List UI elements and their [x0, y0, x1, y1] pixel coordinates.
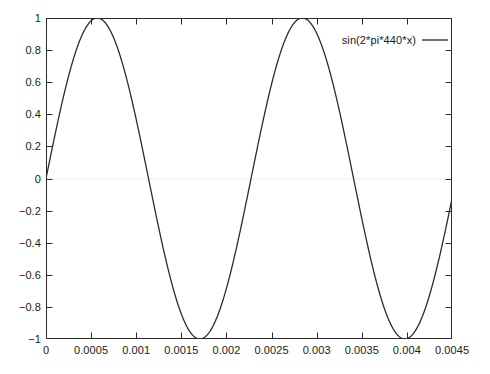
y-tick-label: 0.4	[25, 108, 41, 120]
y-tick-label: −0.6	[19, 269, 41, 281]
legend: sin(2*pi*440*x)	[342, 34, 448, 46]
plot-canvas	[46, 18, 452, 339]
x-axis-tick-labels: 00.00050.0010.00150.0020.00250.0030.0035…	[0, 344, 490, 364]
x-tick-label: 0	[43, 344, 49, 356]
x-tick-label: 0.0015	[164, 344, 198, 356]
legend-line-sample	[422, 36, 448, 44]
y-tick-label: 0	[35, 173, 41, 185]
y-tick-label: 1	[35, 12, 41, 24]
chart-page: sin(2*pi*440*x) −1−0.8−0.6−0.4−0.200.20.…	[0, 0, 490, 374]
y-tick-label: −0.8	[19, 301, 41, 313]
x-tick-label: 0.0005	[74, 344, 108, 356]
x-tick-label: 0.004	[393, 344, 421, 356]
x-tick-label: 0.0035	[345, 344, 379, 356]
x-tick-label: 0.002	[212, 344, 240, 356]
x-tick-label: 0.003	[303, 344, 331, 356]
x-tick-label: 0.001	[122, 344, 150, 356]
y-tick-label: 0.8	[25, 44, 41, 56]
y-tick-label: −0.4	[19, 237, 41, 249]
y-tick-label: −0.2	[19, 205, 41, 217]
legend-entry-label: sin(2*pi*440*x)	[342, 34, 416, 46]
y-tick-label: 0.6	[25, 76, 41, 88]
y-axis-tick-labels: −1−0.8−0.6−0.4−0.200.20.40.60.81	[0, 0, 41, 374]
y-tick-label: 0.2	[25, 140, 41, 152]
x-tick-label: 0.0045	[435, 344, 469, 356]
plot-area: sin(2*pi*440*x)	[46, 18, 452, 339]
x-tick-label: 0.0025	[254, 344, 288, 356]
